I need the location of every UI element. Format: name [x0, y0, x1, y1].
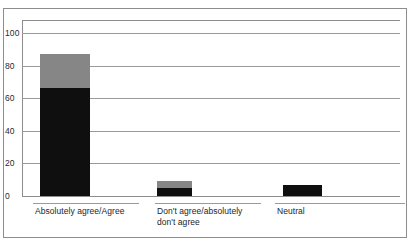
y-axis-spine [22, 20, 23, 197]
bar-segment-dark-1 [40, 88, 90, 196]
bar-dont-agree [157, 181, 192, 196]
bar-segment-dark-2 [157, 188, 192, 196]
y-tick-label-60: 60 [5, 94, 21, 103]
plot-top-border [22, 20, 400, 21]
bar-segment-light-1 [40, 54, 90, 88]
gridline-0 [22, 196, 400, 197]
y-tick-label-40: 40 [5, 127, 21, 136]
category-rule-2 [155, 203, 261, 204]
y-tick-label-100: 100 [5, 29, 21, 38]
bar-segment-dark-3 [283, 185, 322, 196]
chart-figure: 100 80 60 40 20 0 Absolutely agree/Agree… [0, 0, 412, 245]
category-rule-1 [33, 203, 139, 204]
category-label-neutral: Neutral [277, 206, 377, 217]
category-label-dont-agree: Don't agree/absolutely don't agree [157, 206, 269, 227]
gridline-100 [22, 33, 400, 34]
bar-segment-light-2 [157, 181, 192, 188]
y-tick-label-20: 20 [5, 159, 21, 168]
category-rule-3 [275, 203, 405, 204]
y-tick-label-0: 0 [5, 192, 21, 201]
bar-absolutely-agree [40, 54, 90, 196]
category-label-absolutely-agree: Absolutely agree/Agree [35, 206, 153, 217]
y-tick-label-80: 80 [5, 62, 21, 71]
bar-neutral [283, 185, 322, 196]
